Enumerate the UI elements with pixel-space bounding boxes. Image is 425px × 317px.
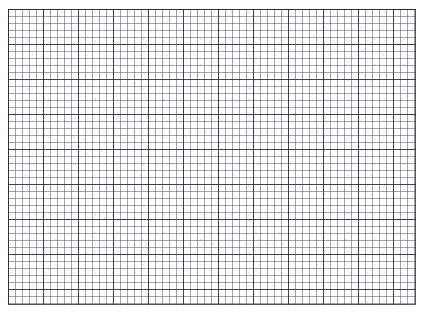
graph-paper-page (0, 0, 425, 317)
major-gridlines (8, 9, 416, 305)
grid-region (8, 9, 416, 305)
